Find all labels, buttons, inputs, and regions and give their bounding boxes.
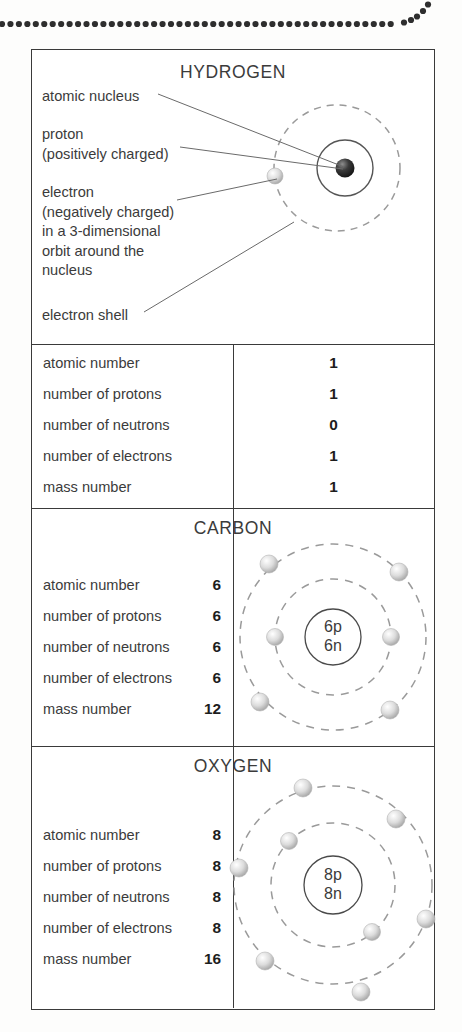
table-row: number of protons 8	[32, 850, 233, 881]
table-row: atomic number 8	[32, 819, 233, 850]
table-row: mass number	[32, 471, 233, 502]
carbon-section: CARBON atomic number 6 number of protons…	[32, 509, 434, 747]
property-value: 6	[212, 638, 233, 656]
carbon-atom-diagram: 6p 6n	[232, 509, 434, 746]
hydrogen-property-labels: atomic number number of protons number o…	[32, 347, 233, 502]
property-label: number of neutrons	[32, 417, 170, 433]
property-value: 1	[233, 471, 434, 502]
oxygen-property-labels: atomic number 8 number of protons 8 numb…	[32, 819, 233, 974]
property-value: 12	[204, 700, 233, 718]
property-label: mass number	[32, 951, 131, 967]
property-label: number of protons	[32, 858, 161, 874]
property-value: 8	[212, 826, 233, 844]
property-value: 1	[233, 440, 434, 471]
table-row: number of protons 6	[32, 600, 233, 631]
table-row: atomic number	[32, 347, 233, 378]
property-value: 6	[212, 607, 233, 625]
table-row: number of electrons	[32, 440, 233, 471]
property-label: number of neutrons	[32, 889, 170, 905]
property-label: mass number	[32, 701, 131, 717]
property-label: number of protons	[32, 608, 161, 624]
hydrogen-atom-diagram	[32, 50, 434, 345]
table-row: mass number 12	[32, 693, 233, 724]
table-row: number of electrons 8	[32, 912, 233, 943]
oxygen-nucleus-protons: 8p	[324, 866, 342, 883]
property-value: 0	[233, 409, 434, 440]
property-value: 6	[212, 669, 233, 687]
property-value: 1	[233, 347, 434, 378]
hydrogen-properties-table: atomic number number of protons number o…	[32, 345, 434, 509]
property-label: number of electrons	[32, 448, 172, 464]
property-value: 1	[233, 378, 434, 409]
property-label: number of electrons	[32, 670, 172, 686]
oxygen-nucleus-neutrons: 8n	[324, 885, 342, 902]
property-label: mass number	[32, 479, 131, 495]
property-value: 8	[212, 888, 233, 906]
property-label: number of electrons	[32, 920, 172, 936]
property-label: atomic number	[32, 577, 140, 593]
dotted-rule	[0, 0, 462, 40]
atom-structure-figure: HYDROGEN atomic nucleus proton (positive…	[31, 49, 435, 1010]
property-label: number of neutrons	[32, 639, 170, 655]
table-row: number of neutrons	[32, 409, 233, 440]
carbon-nucleus-neutrons: 6n	[324, 637, 342, 654]
table-row: atomic number 6	[32, 569, 233, 600]
property-label: atomic number	[32, 355, 140, 371]
table-row: mass number 16	[32, 943, 233, 974]
hydrogen-section: HYDROGEN atomic nucleus proton (positive…	[32, 50, 434, 345]
property-value: 8	[212, 919, 233, 937]
table-row: number of protons	[32, 378, 233, 409]
table-row: number of neutrons 6	[32, 631, 233, 662]
property-value: 6	[212, 576, 233, 594]
oxygen-atom-diagram: 8p 8n	[232, 747, 434, 1008]
carbon-nucleus-protons: 6p	[324, 618, 342, 635]
property-label: number of protons	[32, 386, 161, 402]
property-value: 8	[212, 857, 233, 875]
hydrogen-property-values: 1 1 0 1 1	[233, 347, 434, 502]
oxygen-section: OXYGEN atomic number 8 number of protons…	[32, 747, 434, 1008]
property-label: atomic number	[32, 827, 140, 843]
carbon-property-labels: atomic number 6 number of protons 6 numb…	[32, 569, 233, 724]
property-value: 16	[204, 950, 233, 968]
table-row: number of neutrons 8	[32, 881, 233, 912]
table-row: number of electrons 6	[32, 662, 233, 693]
